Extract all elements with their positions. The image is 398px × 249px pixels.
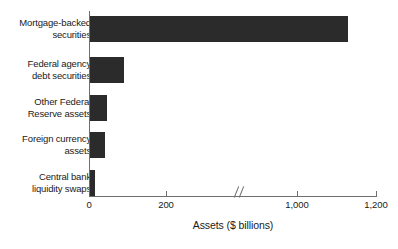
x-tick-label-1200: 1,200 bbox=[354, 199, 398, 211]
x-tick-1000 bbox=[297, 191, 298, 196]
x-tick-0 bbox=[89, 191, 90, 196]
plot-area: 0 200 1,000 1,200 Assets ($ billions) bbox=[0, 0, 398, 249]
bar-chart: Mortgage-backed securities Federal agenc… bbox=[0, 0, 398, 249]
x-tick-label-1000: 1,000 bbox=[275, 199, 319, 211]
x-tick-200 bbox=[166, 191, 167, 196]
bar-foreign-currency-assets bbox=[90, 132, 105, 158]
x-axis-title: Assets ($ billions) bbox=[89, 219, 377, 231]
x-tick-label-0: 0 bbox=[67, 199, 111, 211]
x-tick-1200 bbox=[376, 191, 377, 196]
bar-federal-agency-debt-securities bbox=[90, 57, 124, 83]
bar-other-federal-reserve-assets bbox=[90, 95, 107, 121]
bar-central-bank-liquidity-swaps bbox=[90, 170, 95, 196]
y-axis-line bbox=[89, 11, 90, 197]
bar-mortgage-backed-securities bbox=[90, 16, 348, 42]
axis-break-icon bbox=[232, 186, 248, 198]
x-tick-label-200: 200 bbox=[144, 199, 188, 211]
